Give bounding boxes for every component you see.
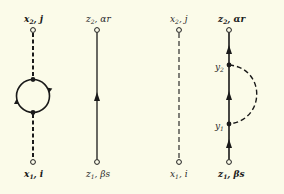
vertex-y2-icon [227,63,232,68]
diagram-a-top-label: x2, j [23,14,44,25]
node-z2-icon [227,28,232,33]
vertex-y1-icon [227,122,232,127]
diagram-b: z2, αr z1, βs [85,14,111,180]
arrow-up-bottom-icon [226,139,232,148]
dashed-arc [229,65,257,124]
arrow-up-top-icon [226,45,232,54]
vertex-y2-label: y2 [214,62,224,73]
diagram-b-top-label: z2, αr [85,14,111,25]
diagram-a-bottom-label: x1, i [23,169,44,180]
node-x1-icon [177,160,182,165]
node-z2-icon [95,28,100,33]
node-z1-icon [227,160,232,165]
diagram-c-top-label: x2, j [170,14,188,25]
diagram-d-top-label: z2, αr [217,14,247,25]
node-z1-icon [95,160,100,165]
diagram-d-bottom-label: z1, βs [217,169,245,180]
diagram-c: x2, j x1, i [170,14,188,180]
diagram-d: z2, αr y2 y1 z1, βs [214,14,257,180]
arrow-up-middle-icon [226,91,232,100]
feynman-diagrams: x2, j x1, i z2, αr z1, βs x2, j [0,0,284,194]
loop-circle [17,80,50,113]
diagram-c-bottom-label: x1, i [170,169,188,180]
vertex-top-icon [31,77,36,82]
node-x2-icon [177,28,182,33]
node-x2-icon [31,28,36,33]
node-x1-icon [31,160,36,165]
diagram-b-bottom-label: z1, βs [85,169,111,180]
vertex-y1-label: y1 [214,121,224,132]
diagram-a: x2, j x1, i [14,14,52,180]
arrow-up-icon [94,92,100,101]
